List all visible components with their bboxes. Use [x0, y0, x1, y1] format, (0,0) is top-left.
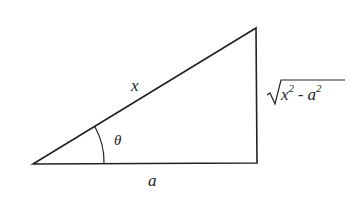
triangle-diagram: x θ a x2 - a2 [0, 0, 364, 200]
angle-arc [95, 127, 104, 163]
right-triangle [33, 28, 257, 164]
base-label: a [148, 171, 157, 190]
radicand: x2 - a2 [280, 82, 322, 104]
diagram-canvas: x θ a x2 - a2 [0, 0, 364, 200]
opposite-side-label: x2 - a2 [267, 80, 345, 104]
hypotenuse-label: x [130, 76, 139, 95]
angle-label: θ [114, 132, 122, 148]
